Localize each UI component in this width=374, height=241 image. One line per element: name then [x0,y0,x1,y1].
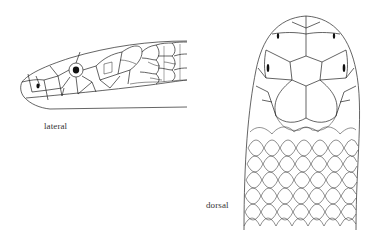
lateral-nostril-icon [36,84,39,89]
dorsal-label: dorsal [206,200,229,210]
dorsal-eye-left-icon [267,64,270,72]
figure: lateral dorsal [0,0,374,241]
dorsal-eye-right-icon [343,64,346,72]
lateral-label: lateral [44,121,67,131]
dorsal-nostril-right-icon [333,33,335,39]
lateral-eye-icon [73,67,79,74]
dorsal-nostril-left-icon [277,33,279,39]
